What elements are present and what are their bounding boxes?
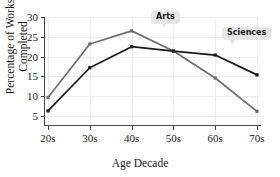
y-tick-label: 25 (27, 32, 38, 43)
x-tick-mark (48, 125, 49, 130)
data-point-marker (88, 66, 91, 69)
y-tick-label: 15 (27, 71, 38, 82)
x-tick-mark (90, 125, 91, 130)
data-point-marker (214, 53, 217, 56)
callout-label-sciences: Sciences (222, 27, 271, 40)
data-point-marker (46, 96, 49, 99)
y-tick-label: 30 (27, 12, 38, 23)
data-point-marker (255, 110, 258, 113)
y-tick-label: 20 (27, 52, 38, 63)
line-series-arts (48, 31, 257, 111)
data-point-marker (172, 49, 175, 52)
x-tick-mark (257, 125, 258, 130)
data-point-marker (88, 42, 91, 45)
data-point-marker (46, 109, 49, 112)
x-tick-label: 50s (166, 133, 181, 144)
data-point-marker (130, 29, 133, 32)
y-tick-label: 5 (33, 111, 39, 122)
x-axis-line (44, 125, 261, 126)
y-axis-title: Percentage of Works Completed (4, 0, 29, 107)
x-axis-title: Age Decade (0, 157, 280, 169)
data-point-marker (130, 45, 133, 48)
x-tick-label: 30s (82, 133, 97, 144)
line-chart: Percentage of Works Completed Age Decade… (0, 0, 280, 177)
callout-label-arts: Arts (151, 11, 180, 24)
x-tick-label: 70s (249, 133, 264, 144)
data-point-marker (255, 73, 258, 76)
x-tick-mark (132, 125, 133, 130)
x-tick-label: 40s (124, 133, 139, 144)
x-tick-label: 20s (40, 133, 55, 144)
x-tick-label: 60s (208, 133, 223, 144)
clipped-title-remnant (0, 0, 280, 4)
data-point-marker (214, 76, 217, 79)
x-tick-mark (215, 125, 216, 130)
y-tick-label: 10 (27, 91, 38, 102)
x-tick-mark (173, 125, 174, 130)
